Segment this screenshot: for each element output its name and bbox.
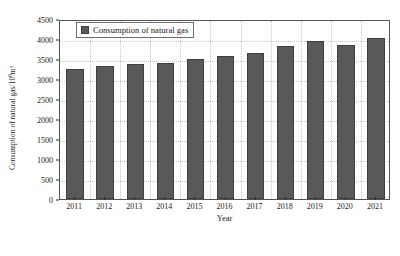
- x-axis-tick-label: 2019: [307, 202, 323, 211]
- x-axis-tick-mark: [255, 197, 256, 200]
- x-axis-tick-label: 2014: [156, 202, 172, 211]
- x-axis-tick-mark: [345, 197, 346, 200]
- x-axis-tick-mark: [74, 197, 75, 200]
- y-axis-tick-label: 4000: [37, 36, 53, 45]
- legend-swatch-icon: [81, 26, 89, 34]
- x-axis-tick-label: 2015: [186, 202, 202, 211]
- x-axis-tick-label: 2020: [337, 202, 353, 211]
- y-axis-tick-label: 1500: [37, 136, 53, 145]
- bar: [96, 66, 113, 199]
- x-axis-tick-label: 2012: [96, 202, 112, 211]
- x-axis-tick-label: 2018: [277, 202, 293, 211]
- y-axis-tick-label: 1000: [37, 156, 53, 165]
- legend-label: Consumption of natural gas: [93, 25, 188, 35]
- y-axis-title-base: Consumption of natural gas/10: [8, 77, 17, 170]
- bar-chart-figure: Consumption of natural gas/108m³ 0500100…: [0, 0, 400, 256]
- bar: [127, 64, 144, 199]
- y-axis-tick-labels: 050010001500200025003000350040004500: [22, 20, 56, 200]
- x-axis-tick-mark: [285, 197, 286, 200]
- x-axis-tick-label: 2016: [217, 202, 233, 211]
- bar: [337, 45, 354, 199]
- y-axis-tick-label: 3000: [37, 76, 53, 85]
- bar: [247, 53, 264, 199]
- y-axis-tick-label: 500: [41, 176, 53, 185]
- x-axis-tick-mark: [315, 197, 316, 200]
- bar: [157, 63, 174, 199]
- bar: [187, 59, 204, 199]
- y-axis-tick-label: 0: [49, 196, 53, 205]
- y-axis-tick-label: 3500: [37, 56, 53, 65]
- bar: [277, 46, 294, 199]
- x-axis-title: Year: [59, 214, 390, 223]
- x-axis-tick-label: 2013: [126, 202, 142, 211]
- x-axis-tick-label: 2011: [66, 202, 82, 211]
- bar: [307, 41, 324, 199]
- bar: [66, 69, 83, 199]
- x-axis-tick-labels: 2011201220132014201520162017201820192020…: [59, 201, 390, 215]
- y-axis-tick-label: 2500: [37, 96, 53, 105]
- y-axis-title-exponent: 8: [7, 74, 13, 77]
- x-axis-tick-mark: [375, 197, 376, 200]
- bar-series: [60, 21, 389, 199]
- x-axis-tick-mark: [225, 197, 226, 200]
- plot-area: [59, 20, 390, 200]
- chart-legend: Consumption of natural gas: [76, 22, 194, 38]
- x-axis-tick-mark: [134, 197, 135, 200]
- bar: [217, 56, 234, 199]
- y-axis-title-tail: m³: [8, 66, 17, 74]
- y-axis-tick-label: 2000: [37, 116, 53, 125]
- y-axis-tick-label: 4500: [37, 16, 53, 25]
- x-axis-tick-label: 2017: [247, 202, 263, 211]
- x-axis-tick-mark: [194, 197, 195, 200]
- x-axis-tick-label: 2021: [367, 202, 383, 211]
- y-axis-title: Consumption of natural gas/108m³: [6, 18, 20, 218]
- x-axis-tick-mark: [104, 197, 105, 200]
- bar: [367, 38, 384, 199]
- x-axis-tick-mark: [164, 197, 165, 200]
